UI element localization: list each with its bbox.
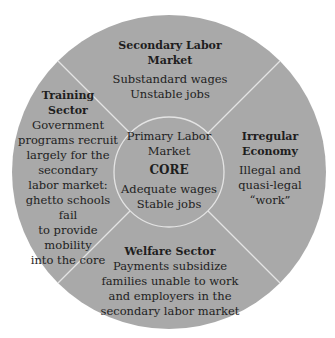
core-text: Stable jobs [119, 197, 219, 212]
sector-text: Payments subsidize [100, 259, 240, 274]
sector-text: ghetto schools fail [16, 193, 120, 223]
core-heading: Market [119, 144, 219, 159]
sector-title: Training [16, 88, 120, 103]
sector-text: largely for the [16, 148, 120, 163]
sector-text: labor market: [16, 178, 120, 193]
sector-title: Welfare Sector [100, 244, 240, 259]
sector-text: Government [16, 118, 120, 133]
sector-text: secondary [16, 163, 120, 178]
sector-text: quasi-legal [230, 178, 310, 193]
sector-text: and employers in the [100, 289, 240, 304]
sector-text: “work” [230, 193, 310, 208]
sector-training: Training Sector Government programs recr… [16, 88, 120, 268]
sector-welfare: Welfare Sector Payments subsidize famili… [100, 244, 240, 319]
sector-text: Substandard wages [95, 72, 245, 87]
core-label: CORE [119, 163, 219, 178]
sector-title: Secondary Labor [95, 38, 245, 53]
sector-text: secondary labor market [100, 304, 240, 319]
sector-irregular-economy: Irregular Economy Illegal and quasi-lega… [230, 129, 310, 208]
core-primary-labor-market: Primary Labor Market CORE Adequate wages… [119, 129, 219, 212]
sector-text: Illegal and [230, 163, 310, 178]
sector-text: families unable to work [100, 274, 240, 289]
core-text: Adequate wages [119, 182, 219, 197]
sector-title: Economy [230, 144, 310, 159]
sector-text: programs recruit [16, 133, 120, 148]
core-heading: Primary Labor [119, 129, 219, 144]
sector-title: Irregular [230, 129, 310, 144]
sector-title: Sector [16, 103, 120, 118]
sector-title: Market [95, 53, 245, 68]
